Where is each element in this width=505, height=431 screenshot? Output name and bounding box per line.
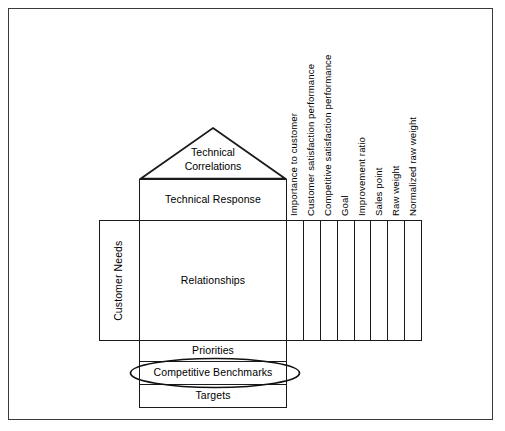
planning-header-label: Importance to customer — [287, 113, 298, 216]
planning-matrix-grid — [286, 220, 422, 341]
planning-header-improvement-ratio: Improvement ratio — [354, 9, 371, 220]
planning-column-customer-satisfaction-performance — [304, 221, 321, 340]
customer-needs-box: Customer Needs — [99, 220, 140, 341]
priorities-box: Priorities — [139, 340, 287, 362]
planning-column-sales-point — [371, 221, 388, 340]
planning-header-label: Goal — [338, 195, 349, 216]
planning-header-label: Competitive satisfaction performance — [321, 55, 332, 216]
planning-column-importance-to-customer — [287, 221, 304, 340]
technical-correlations-roof: Technical Correlations — [139, 126, 287, 180]
planning-header-normalized-raw-weight: Normalized raw weight — [405, 9, 422, 220]
planning-header-label: Normalized raw weight — [406, 117, 417, 216]
priorities-label: Priorities — [192, 344, 234, 357]
technical-response-box: Technical Response — [139, 179, 287, 221]
planning-column-competitive-satisfaction-performance — [321, 221, 338, 340]
planning-header-label: Improvement ratio — [355, 137, 366, 216]
planning-header-label: Raw weight — [389, 165, 400, 216]
planning-header-sales-point: Sales point — [371, 9, 388, 220]
diagram-outer-frame: Technical Correlations Technical Respons… — [8, 8, 493, 420]
customer-needs-label: Customer Needs — [113, 240, 126, 320]
technical-response-label: Technical Response — [165, 193, 261, 206]
planning-column-goal — [338, 221, 355, 340]
planning-header-label: Customer satisfaction performance — [304, 64, 315, 216]
planning-header-customer-satisfaction-performance: Customer satisfaction performance — [303, 9, 320, 220]
competitive-benchmarks-box: Competitive Benchmarks — [139, 361, 287, 385]
planning-header-goal: Goal — [337, 9, 354, 220]
relationships-box: Relationships — [139, 220, 287, 341]
planning-header-raw-weight: Raw weight — [388, 9, 405, 220]
planning-matrix-headers: Importance to customer Customer satisfac… — [286, 9, 422, 220]
relationships-label: Relationships — [181, 274, 245, 287]
planning-column-raw-weight — [388, 221, 405, 340]
planning-header-label: Sales point — [372, 167, 383, 216]
planning-column-normalized-raw-weight — [405, 221, 421, 340]
planning-header-competitive-satisfaction-performance: Competitive satisfaction performance — [320, 9, 337, 220]
targets-label: Targets — [195, 389, 230, 402]
planning-header-importance-to-customer: Importance to customer — [286, 9, 303, 220]
competitive-benchmarks-label: Competitive Benchmarks — [154, 366, 273, 379]
planning-column-improvement-ratio — [355, 221, 372, 340]
technical-correlations-label: Technical Correlations — [139, 146, 287, 173]
targets-box: Targets — [139, 384, 287, 408]
house-of-quality-diagram: Technical Correlations Technical Respons… — [0, 0, 505, 431]
